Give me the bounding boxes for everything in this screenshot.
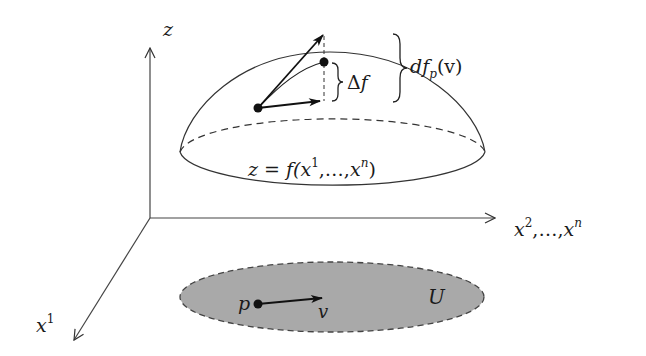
delta-f-label: Δf [347, 71, 371, 93]
base-point [254, 104, 263, 113]
delta-f-brace [332, 63, 343, 101]
domain-region: p v U [180, 262, 484, 332]
x2-xn-axis-label: x2,…,xn [514, 216, 582, 240]
z-axis-label: z [162, 18, 174, 40]
base-ellipse-back [180, 119, 485, 152]
tangent-vector-arrow [258, 35, 323, 108]
differential-label: dfp(v) [410, 55, 462, 81]
horizontal-vector-arrow [258, 101, 320, 108]
vector-v-label: v [318, 301, 328, 322]
tangent-construction [254, 35, 329, 113]
domain-U-label: U [428, 285, 446, 309]
delta-f-annotation: Δf [332, 63, 371, 101]
x1-axis [74, 218, 150, 340]
differential-annotation: dfp(v) [393, 34, 462, 102]
upper-point [320, 58, 329, 67]
point-p-label: p [238, 292, 250, 314]
differential-diagram: z x2,…,xn x1 p v U z = f(x1,…,xn) [0, 0, 646, 356]
surface-equation: z = f(x1,…,xn) [247, 156, 376, 180]
differential-brace [393, 34, 407, 102]
x1-axis-label: x1 [36, 312, 54, 336]
